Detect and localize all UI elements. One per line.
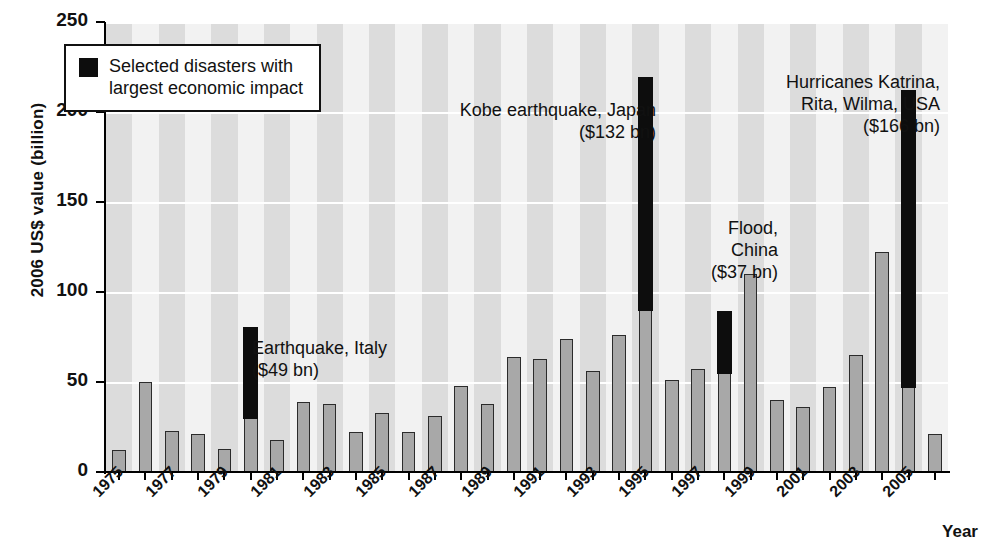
bar (139, 382, 153, 472)
bar (612, 335, 626, 472)
x-tick (934, 471, 936, 480)
x-tick (408, 471, 410, 480)
bar (770, 400, 784, 472)
bar (928, 434, 942, 472)
bar (665, 380, 679, 472)
y-tick-label: 100 (42, 279, 88, 301)
x-tick (460, 471, 462, 480)
annotation-earthquake-italy: Earthquake, Italy ($49 bn) (252, 338, 387, 382)
y-tick (96, 21, 105, 23)
x-axis-title: Year (942, 522, 978, 542)
bar (902, 90, 916, 472)
x-tick (776, 471, 778, 480)
y-tick (96, 291, 105, 293)
disaster-losses-bar-chart: 2006 US$ value (billion) 050100150200250… (0, 0, 986, 559)
annotation-flood-china: Flood, China ($37 bn) (648, 218, 778, 284)
x-tick (197, 471, 199, 480)
bar (560, 339, 574, 472)
y-tick-label: 150 (42, 189, 88, 211)
bar (691, 369, 705, 472)
background-band (422, 22, 448, 472)
x-tick (355, 471, 357, 480)
legend: Selected disasters with largest economic… (64, 44, 321, 112)
x-tick (723, 471, 725, 480)
gridline (106, 292, 948, 294)
bar (586, 371, 600, 472)
gridline (106, 22, 948, 24)
legend-label: Selected disasters with largest economic… (109, 55, 303, 100)
bar (533, 359, 547, 472)
y-tick-label: 50 (42, 369, 88, 391)
x-tick (513, 471, 515, 480)
bar (454, 386, 468, 472)
y-tick-label: 250 (42, 9, 88, 31)
y-tick (96, 381, 105, 383)
gridline (106, 202, 948, 204)
bar (875, 252, 889, 472)
x-tick (144, 471, 146, 480)
bar (191, 434, 205, 472)
bar (507, 357, 521, 472)
highlighted-segment (717, 311, 732, 374)
legend-swatch-icon (79, 58, 98, 77)
gridline (106, 382, 948, 384)
bar (849, 355, 863, 472)
x-tick (250, 471, 252, 480)
bar (297, 402, 311, 472)
annotation-kobe-earthquake: Kobe earthquake, Japan ($132 bn) (398, 100, 656, 144)
background-band (369, 22, 395, 472)
x-tick (618, 471, 620, 480)
y-tick (96, 201, 105, 203)
bar (718, 312, 732, 472)
x-tick (302, 471, 304, 480)
bar (349, 432, 363, 472)
bar (823, 387, 837, 472)
x-tick-label: 1975 (89, 463, 127, 501)
bar (402, 432, 416, 472)
bar (744, 274, 758, 472)
x-tick (565, 471, 567, 480)
y-tick-label: 0 (42, 459, 88, 481)
x-tick (829, 471, 831, 480)
annotation-hurricanes-katrina: Hurricanes Katrina, Rita, Wilma, USA ($1… (700, 72, 940, 138)
x-tick (671, 471, 673, 480)
x-tick (881, 471, 883, 480)
